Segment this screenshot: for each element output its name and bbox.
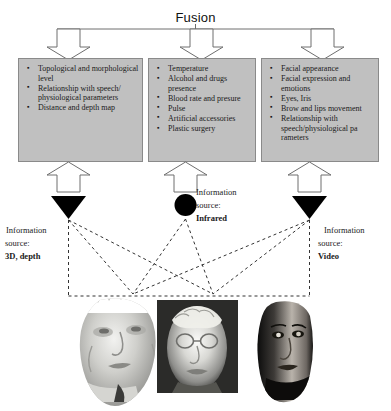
info-source-line2: source: (5, 237, 47, 250)
info-source-kind: Video (318, 250, 365, 263)
dashed-fov-network (69, 219, 310, 296)
dashed-ir-to-right-target (186, 219, 214, 294)
sample-image-face-thermal (157, 300, 238, 393)
info-source-kind: 3D, depth (5, 250, 47, 263)
info-source-label-video: Information source: Video (318, 224, 365, 263)
triangle-down-sensor-icon-video (292, 196, 327, 219)
info-source-line1: Information (196, 186, 237, 199)
up-arrow-from-3d-sensor (47, 162, 90, 192)
sample-image-face-video (257, 294, 313, 402)
info-source-line1: Information (318, 224, 365, 237)
info-source-kind: Infrared (196, 212, 237, 225)
sample-image-face-3d-mesh (78, 289, 161, 406)
info-source-line1: Information (5, 224, 47, 237)
dashed-video-to-left-target (133, 220, 310, 294)
circle-sensor-icon-infrared (175, 194, 197, 216)
dashed-3d-to-left-target (69, 220, 134, 294)
up-arrow-from-video-sensor (288, 162, 331, 192)
triangle-down-sensor-icon-3d (51, 196, 86, 219)
info-source-line2: source: (196, 199, 237, 212)
fusion-diagram: Fusion Topological and morphological lev… (0, 0, 391, 411)
info-source-label-3d-depth: Information source: 3D, depth (5, 224, 47, 263)
dashed-video-to-right-target (213, 220, 310, 294)
info-source-label-infrared: Information source: Infrared (196, 186, 237, 225)
info-source-line2: source: (318, 237, 365, 250)
